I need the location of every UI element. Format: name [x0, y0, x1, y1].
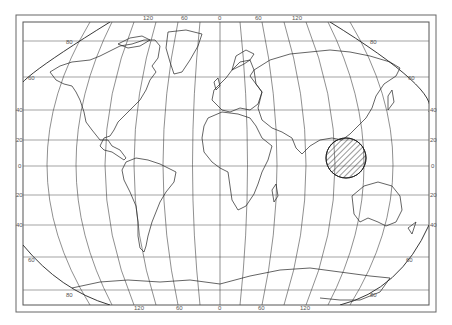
highlighted-region-southeast-asia	[326, 138, 366, 178]
svg-text:60: 60	[176, 305, 183, 311]
parallel-labels-left: 40 20 0 20 40	[16, 107, 23, 228]
svg-text:40: 40	[430, 222, 437, 228]
svg-text:0: 0	[218, 15, 222, 21]
svg-text:20: 20	[430, 192, 437, 198]
svg-text:40: 40	[16, 107, 23, 113]
svg-text:60: 60	[408, 75, 415, 81]
svg-text:60: 60	[406, 257, 413, 263]
south-america	[122, 158, 176, 252]
inner-frame	[23, 22, 429, 305]
svg-text:20: 20	[430, 137, 437, 143]
svg-text:20: 20	[16, 137, 23, 143]
svg-text:60: 60	[28, 257, 35, 263]
greenland	[166, 30, 202, 74]
antarctica	[72, 268, 390, 300]
svg-text:60: 60	[258, 305, 265, 311]
australia	[352, 182, 402, 226]
svg-text:0: 0	[18, 163, 22, 169]
svg-text:120: 120	[134, 305, 145, 311]
svg-text:60: 60	[255, 15, 262, 21]
graticule	[19, 22, 430, 305]
asia	[254, 50, 400, 154]
svg-text:120: 120	[143, 15, 154, 21]
svg-text:0: 0	[431, 163, 435, 169]
svg-text:60: 60	[181, 15, 188, 21]
svg-text:80: 80	[66, 292, 73, 298]
svg-text:0: 0	[218, 305, 222, 311]
svg-text:60: 60	[28, 75, 35, 81]
meridian-labels-bottom: 120 60 0 60 120	[134, 305, 311, 311]
meridian-labels-top: 120 60 0 60 120	[143, 15, 303, 21]
svg-text:40: 40	[16, 222, 23, 228]
svg-text:120: 120	[300, 305, 311, 311]
svg-text:80: 80	[370, 39, 377, 45]
svg-text:80: 80	[370, 292, 377, 298]
north-america	[50, 40, 160, 160]
world-map: 120 60 0 60 120 120 60 0 60 120 40 20 0 …	[0, 0, 452, 325]
outer-frame	[16, 15, 436, 312]
svg-text:20: 20	[16, 192, 23, 198]
svg-text:80: 80	[66, 39, 73, 45]
svg-text:40: 40	[430, 107, 437, 113]
svg-text:120: 120	[292, 15, 303, 21]
